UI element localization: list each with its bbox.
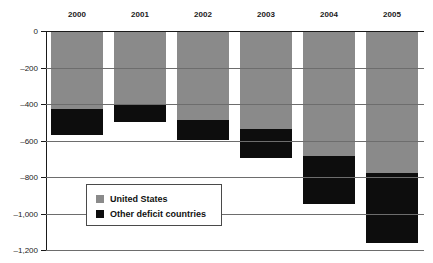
legend-label-united-states: United States (110, 194, 168, 204)
y-tick-label-800: –800 (0, 173, 38, 182)
bar-segment-other-deficit-countries-2000[interactable] (51, 109, 103, 136)
x-tick-label-2002: 2002 (194, 10, 212, 19)
gridline-400 (46, 104, 424, 105)
x-tick-label-2001: 2001 (131, 10, 149, 19)
y-tick-label-1200: –1,200 (0, 246, 38, 255)
legend-item-other-deficit-countries[interactable]: Other deficit countries (96, 206, 221, 221)
bar-segment-other-deficit-countries-2005[interactable] (366, 173, 418, 242)
gridline-0 (46, 31, 424, 32)
bar-segment-united-states-2000[interactable] (51, 31, 103, 109)
gridline-1200 (46, 250, 424, 251)
legend-label-other-deficit-countries: Other deficit countries (110, 209, 206, 219)
x-tick-label-2003: 2003 (257, 10, 275, 19)
y-tick-label-400: –400 (0, 100, 38, 109)
x-tick-label-2000: 2000 (68, 10, 86, 19)
gridline-200 (46, 68, 424, 69)
bar-segment-other-deficit-countries-2001[interactable] (114, 104, 166, 122)
bar-segment-other-deficit-countries-2003[interactable] (240, 129, 292, 158)
gridline-800 (46, 177, 424, 178)
bar-segment-other-deficit-countries-2002[interactable] (177, 120, 229, 140)
bar-segment-united-states-2003[interactable] (240, 31, 292, 129)
legend-swatch-icon-united-states (96, 195, 104, 203)
x-tick-label-2004: 2004 (320, 10, 338, 19)
y-tick-label-1000: –1,000 (0, 209, 38, 218)
legend-item-united-states[interactable]: United States (96, 191, 221, 206)
bar-segment-other-deficit-countries-2004[interactable] (303, 156, 355, 204)
stacked-bar-chart: 0 –200 –400 –600 –800 –1,000 –1,200 2000… (0, 0, 433, 263)
bar-segment-united-states-2002[interactable] (177, 31, 229, 120)
gridline-600 (46, 141, 424, 142)
legend-swatch-icon-other-deficit-countries (96, 210, 104, 218)
y-tick-label-0: 0 (0, 27, 38, 36)
bar-segment-united-states-2004[interactable] (303, 31, 355, 156)
chart-legend: United States Other deficit countries (86, 184, 222, 226)
y-tick-label-600: –600 (0, 136, 38, 145)
bar-segment-united-states-2005[interactable] (366, 31, 418, 173)
y-tick-label-200: –200 (0, 63, 38, 72)
x-tick-label-2005: 2005 (383, 10, 401, 19)
